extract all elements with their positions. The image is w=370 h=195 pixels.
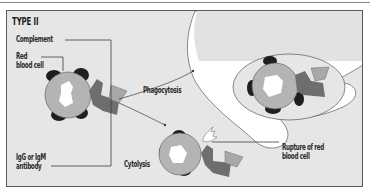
- diagram-frame: TYPE II Complement Red blood cell IgG or…: [6, 10, 363, 187]
- label-complement: Complement: [16, 35, 53, 44]
- label-rupture-2: blood cell: [282, 152, 309, 161]
- lysed-red-blood-cell: [159, 127, 243, 177]
- top-rule: [0, 2, 370, 3]
- label-rupture-1: Rupture of red: [282, 143, 324, 152]
- label-antibody-1: IgG or IgM: [16, 153, 46, 162]
- label-antibody-2: antibody: [16, 162, 41, 171]
- initial-red-blood-cell: [45, 68, 127, 121]
- arrows: [119, 71, 193, 125]
- cytolysis-arrow: [119, 103, 165, 125]
- diagram-artwork: [7, 11, 363, 187]
- label-red-blood-cell-1: Red: [16, 52, 27, 61]
- figure-title: TYPE II: [12, 16, 38, 27]
- label-phagocytosis: Phagocytosis: [143, 86, 181, 95]
- label-cytolysis: Cytolysis: [124, 160, 150, 169]
- label-red-blood-cell-2: blood cell: [16, 61, 43, 70]
